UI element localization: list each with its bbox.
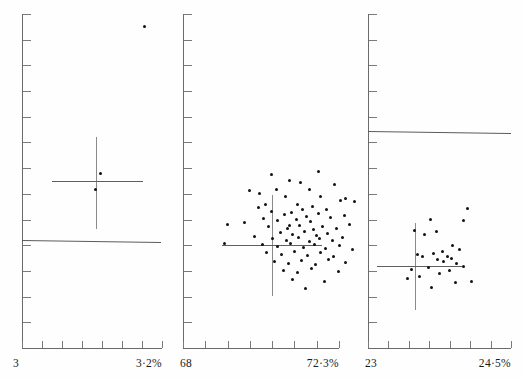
data-point: [429, 218, 432, 221]
data-point: [466, 207, 469, 210]
data-point: [462, 219, 465, 222]
x-tick-3: [429, 341, 430, 348]
y-tick-11: [369, 297, 377, 298]
x-tick-0: [368, 341, 369, 348]
data-point: [406, 277, 409, 280]
x-tick-1: [388, 341, 389, 348]
data-point: [416, 253, 419, 256]
axis-min-label-2: 23: [365, 357, 377, 369]
multi-panel-scatter-figure: 33·2%6872·3%2324·5%: [0, 0, 523, 378]
error-bar-horizontal: [377, 266, 462, 267]
data-point: [455, 262, 458, 265]
y-tick-3: [369, 91, 377, 92]
data-point: [448, 269, 451, 272]
data-point: [418, 275, 421, 278]
data-point: [427, 266, 430, 269]
x-axis-line: [368, 348, 511, 349]
data-point: [450, 257, 453, 260]
data-point: [423, 233, 426, 236]
data-point: [470, 280, 473, 283]
y-tick-6: [369, 168, 377, 169]
data-point: [435, 230, 438, 233]
data-point: [451, 244, 454, 247]
y-tick-5: [369, 142, 377, 143]
data-point: [436, 258, 439, 261]
y-tick-9: [369, 245, 377, 246]
data-point: [438, 272, 441, 275]
data-point: [410, 268, 413, 271]
y-tick-0: [369, 14, 377, 15]
x-tick-7: [511, 341, 512, 348]
y-tick-4: [369, 117, 377, 118]
data-point: [442, 260, 445, 263]
x-tick-6: [491, 341, 492, 348]
y-tick-12: [369, 322, 377, 323]
data-point: [458, 248, 461, 251]
y-tick-8: [369, 220, 377, 221]
y-tick-7: [369, 194, 377, 195]
data-point: [413, 229, 416, 232]
y-tick-2: [369, 65, 377, 66]
reference-line: [368, 131, 511, 134]
x-tick-2: [409, 341, 410, 348]
data-point: [446, 255, 449, 258]
axis-max-label-2: 24·5%: [450, 357, 511, 369]
data-point: [441, 250, 444, 253]
x-tick-4: [450, 341, 451, 348]
x-tick-5: [470, 341, 471, 348]
data-point: [454, 281, 457, 284]
y-tick-1: [369, 40, 377, 41]
data-point: [432, 252, 435, 255]
data-point: [462, 265, 465, 268]
data-point: [421, 255, 424, 258]
panel-right: 2324·5%: [0, 0, 523, 378]
y-tick-10: [369, 271, 377, 272]
data-point: [430, 286, 433, 289]
